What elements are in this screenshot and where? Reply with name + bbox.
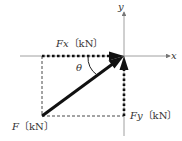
y-axis-label: y (118, 2, 124, 12)
f-unit: 〔kN〕 (19, 121, 54, 132)
x-axis-label: x (171, 51, 177, 61)
theta-arc (88, 56, 97, 75)
fy-symbol: Fy (130, 110, 143, 121)
f-symbol: F (12, 121, 19, 132)
fx-label: Fx〔kN〕 (56, 39, 103, 49)
fy-label: Fy〔kN〕 (130, 111, 177, 121)
f-label: F〔kN〕 (12, 122, 54, 132)
theta-label: θ (76, 63, 82, 73)
fy-unit: 〔kN〕 (143, 110, 178, 121)
fx-unit: 〔kN〕 (69, 38, 104, 49)
fx-symbol: Fx (56, 38, 69, 49)
